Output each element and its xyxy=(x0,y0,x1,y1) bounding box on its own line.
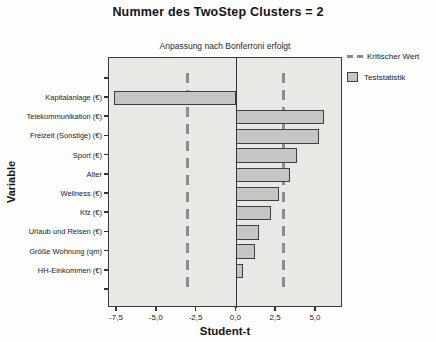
critical-value-line-0 xyxy=(186,73,189,291)
bar-6 xyxy=(236,206,271,221)
x-tick-label-4: 2,5 xyxy=(270,313,281,322)
y-tick xyxy=(104,77,108,79)
x-tick-label-5: 5,0 xyxy=(309,313,320,322)
bar-2 xyxy=(236,129,319,144)
y-tick-label-7: Urlaub und Reisen (€) xyxy=(29,227,102,236)
x-tick xyxy=(115,307,117,311)
x-tick xyxy=(155,307,157,311)
bar-0 xyxy=(114,91,237,106)
y-tick-label-2: Freizeit (Sonstige) (€) xyxy=(30,131,102,140)
x-axis-title: Student-t xyxy=(108,325,342,337)
x-tick-label-2: -2,5 xyxy=(189,313,203,322)
bar-9 xyxy=(236,264,242,279)
chart-title: Nummer des TwoStep Clusters = 2 xyxy=(0,5,436,19)
chart-canvas: Nummer des TwoStep Clusters = 2 Anpassun… xyxy=(0,0,436,342)
y-tick-label-3: Sport (€) xyxy=(73,150,102,159)
legend-item-kritischer-wert: Kritischer Wert xyxy=(347,52,435,61)
x-tick-label-1: -5,0 xyxy=(149,313,163,322)
x-tick xyxy=(314,307,316,311)
bar-1 xyxy=(236,110,324,125)
x-tick xyxy=(274,307,276,311)
y-tick xyxy=(104,192,108,194)
bar-7 xyxy=(236,225,258,240)
y-tick-label-9: HH-Einkommen (€) xyxy=(38,265,102,274)
x-tick-label-0: -7,5 xyxy=(109,313,123,322)
bar-8 xyxy=(236,244,255,259)
y-tick xyxy=(104,288,108,290)
y-tick-label-5: Wellness (€) xyxy=(60,189,102,198)
y-tick xyxy=(104,231,108,233)
chart-subtitle: Anpassung nach Bonferroni erfolgt xyxy=(108,41,342,51)
legend-label-teststatistik: Teststatistik xyxy=(364,73,405,82)
y-tick xyxy=(104,269,108,271)
x-tick xyxy=(235,307,237,311)
y-tick xyxy=(104,211,108,213)
y-axis-title: Variable xyxy=(5,161,17,203)
bar-3 xyxy=(236,148,296,163)
y-tick xyxy=(104,135,108,137)
plot-area xyxy=(108,57,342,307)
x-tick xyxy=(195,307,197,311)
y-tick xyxy=(104,115,108,117)
bar-4 xyxy=(236,168,290,183)
y-tick-label-4: Alter xyxy=(87,169,102,178)
bar-swatch-icon xyxy=(347,72,358,82)
y-tick-label-1: Telekommunikation (€) xyxy=(27,112,102,121)
legend-item-teststatistik: Teststatistik xyxy=(347,72,435,82)
x-tick-label-3: 0,0 xyxy=(230,313,241,322)
y-tick-label-8: Größe Wohnung (qm) xyxy=(29,246,102,255)
y-tick xyxy=(104,96,108,98)
y-tick xyxy=(104,173,108,175)
dashed-line-icon xyxy=(347,55,363,58)
y-tick xyxy=(104,154,108,156)
y-tick xyxy=(104,250,108,252)
y-tick-label-6: Kfz (€) xyxy=(80,208,102,217)
legend-label-kritischer-wert: Kritischer Wert xyxy=(367,52,419,61)
legend: Kritischer Wert Teststatistik xyxy=(347,52,435,93)
zero-baseline xyxy=(236,58,238,308)
bar-5 xyxy=(236,187,279,202)
y-tick-label-0: Kapitalanlage (€) xyxy=(45,93,102,102)
